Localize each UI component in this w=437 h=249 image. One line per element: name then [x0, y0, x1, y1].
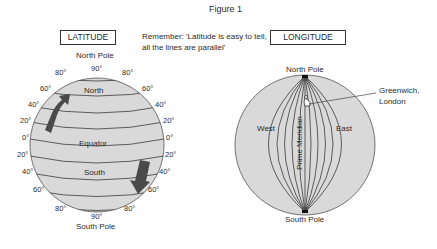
- lat-left-degree: 80°: [55, 68, 66, 77]
- lat-left-degree: 60°: [33, 185, 44, 194]
- lat-left-degree: 40°: [28, 100, 39, 109]
- lat-right-degree: 20°: [165, 150, 176, 159]
- greenwich-label-line1: Greenwich,: [379, 86, 419, 95]
- lat-right-degree: 80°: [122, 68, 133, 77]
- lat-south-region: South: [84, 168, 105, 177]
- lat-left-degree: 60°: [40, 84, 51, 93]
- lat-top-degree: 90°: [91, 64, 102, 73]
- south-pole-marker: [302, 210, 308, 213]
- longitude-globe: [235, 75, 376, 215]
- lon-west-label: West: [257, 124, 275, 133]
- north-pole-marker: [302, 75, 308, 78]
- lat-right-degree: 40°: [155, 100, 166, 109]
- lat-left-degree: 20°: [17, 150, 28, 159]
- lat-right-degree: 60°: [148, 185, 159, 194]
- lon-north-pole-label: North Pole: [286, 65, 324, 74]
- greenwich-label-line2: London: [379, 97, 406, 106]
- lat-right-degree: 20°: [163, 116, 174, 125]
- lat-left-degree: 40°: [22, 167, 33, 176]
- lon-south-pole-label: South Pole: [285, 215, 324, 224]
- lat-bottom-degree: 90°: [91, 212, 102, 221]
- lat-left-degree: 80°: [55, 204, 66, 213]
- lat-right-degree: 80°: [124, 204, 135, 213]
- lat-equator-label: Equator: [79, 139, 107, 148]
- longitude-label-box: LONGITUDE: [270, 30, 346, 45]
- lat-south-pole-label: South Pole: [76, 222, 115, 231]
- lat-right-degree: 0°: [166, 133, 173, 142]
- prime-meridian-text: Prime Meridian: [295, 116, 304, 170]
- lon-east-label: East: [336, 124, 352, 133]
- lat-left-degree: 0°: [22, 133, 29, 142]
- lat-north-pole-label: North Pole: [76, 51, 114, 60]
- lat-north-region: North: [84, 86, 104, 95]
- lat-right-degree: 60°: [142, 84, 153, 93]
- lat-left-degree: 20°: [20, 116, 31, 125]
- lat-right-degree: 40°: [159, 167, 170, 176]
